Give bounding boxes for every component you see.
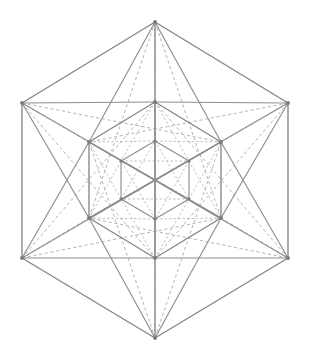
middle-to-inner-hidden-edge: [155, 199, 189, 258]
inner-vertex-node: [153, 139, 156, 142]
geometry-canvas: [0, 0, 310, 361]
outer-to-middle-hidden-edge: [89, 142, 155, 338]
middle-vertex-node: [219, 140, 223, 144]
outer-vertex-node: [20, 256, 24, 260]
inner-vertex-node: [187, 159, 190, 162]
middle-vertex-node: [87, 216, 91, 220]
middle-to-inner-hidden-edge: [89, 218, 155, 219]
outer-hexagon-edge: [22, 22, 155, 103]
middle-hexagon-edge: [155, 218, 221, 258]
outer-to-middle-spoke: [155, 22, 221, 142]
outer-vertex-node: [153, 336, 157, 340]
middle-vertex-node: [219, 216, 223, 220]
outer-hexagon-edge: [155, 22, 288, 103]
outer-hexagon-edge: [155, 258, 288, 338]
middle-to-inner-hidden-edge: [155, 102, 189, 161]
outer-to-middle-spoke: [155, 218, 221, 338]
middle-to-inner-hidden-edge: [121, 199, 155, 258]
inner-vertex-node: [187, 197, 190, 200]
inner-hexagon-edge: [121, 199, 155, 219]
middle-to-inner-hidden-edge: [155, 218, 221, 219]
outer-to-middle-hidden-edge: [155, 22, 221, 218]
outer-to-middle-spoke: [89, 218, 155, 338]
middle-vertex-node: [87, 140, 91, 144]
outer-vertex-node: [153, 20, 157, 24]
inner-vertex-node: [153, 217, 156, 220]
outer-hexagon-edge: [22, 258, 155, 338]
middle-vertex-node: [153, 256, 157, 260]
outer-to-middle-hidden-edge: [155, 142, 221, 338]
middle-vertex-node: [153, 100, 157, 104]
outer-vertex-node: [286, 101, 290, 105]
inner-hexagon-edge: [155, 141, 189, 161]
inner-vertex-node: [119, 159, 122, 162]
middle-to-inner-hidden-edge: [121, 102, 155, 161]
middle-hexagon-edge: [89, 218, 155, 258]
outer-vertex-node: [286, 256, 290, 260]
inner-hexagon-edge: [121, 141, 155, 161]
middle-hexagon-edge: [89, 102, 155, 142]
outer-to-middle-spoke: [89, 22, 155, 142]
outer-to-middle-hidden-edge: [89, 22, 155, 218]
middle-hexagon-edge: [155, 102, 221, 142]
geometry-figure: [0, 0, 310, 361]
outer-to-middle-spoke: [22, 102, 155, 103]
solid-outer-hexagon-layer: [22, 22, 288, 338]
outer-to-middle-spoke: [155, 102, 288, 103]
outer-vertex-node: [20, 101, 24, 105]
inner-hexagon-edge: [155, 199, 189, 219]
inner-vertex-node: [119, 197, 122, 200]
